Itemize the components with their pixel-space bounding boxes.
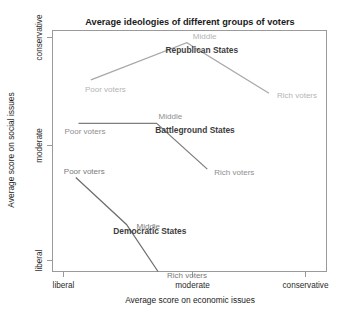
point-label-rich-voters: Rich voters <box>167 271 207 280</box>
point-label-layer: Poor votersMiddleRich votersPoor votersM… <box>64 32 317 280</box>
x-tick-label-moderate: moderate <box>175 281 210 290</box>
group-label-democratic-states: Democratic States <box>113 226 186 236</box>
x-tick-label-liberal: liberal <box>53 281 75 290</box>
chart-container: Average ideologies of different groups o… <box>0 0 347 314</box>
y-axis-label: Average score on social issues <box>6 92 16 207</box>
point-label-rich-voters: Rich voters <box>277 91 317 100</box>
chart-title: Average ideologies of different groups o… <box>85 17 294 27</box>
y-tick-label-moderate: moderate <box>35 128 44 163</box>
group-label-republican-states: Republican States <box>165 45 238 55</box>
point-label-poor-voters: Poor voters <box>65 127 106 136</box>
point-label-poor-voters: Poor voters <box>85 85 126 94</box>
x-tick-label-conservative: conservative <box>283 281 329 290</box>
x-axis-label: Average score on economic issues <box>125 295 255 305</box>
point-label-rich-voters: Rich voters <box>214 168 254 177</box>
plot-frame <box>53 31 327 272</box>
point-label-poor-voters: Poor voters <box>64 167 105 176</box>
series-layer <box>76 43 269 272</box>
y-tick-label-liberal: liberal <box>35 249 44 271</box>
voter-ideology-line-chart: Average ideologies of different groups o… <box>0 0 347 314</box>
y-tick-label-conservative: conservative <box>35 14 44 60</box>
point-label-middle: Middle <box>159 112 183 121</box>
group-label-battleground-states: Battleground States <box>155 125 235 135</box>
point-label-middle: Middle <box>193 32 217 41</box>
